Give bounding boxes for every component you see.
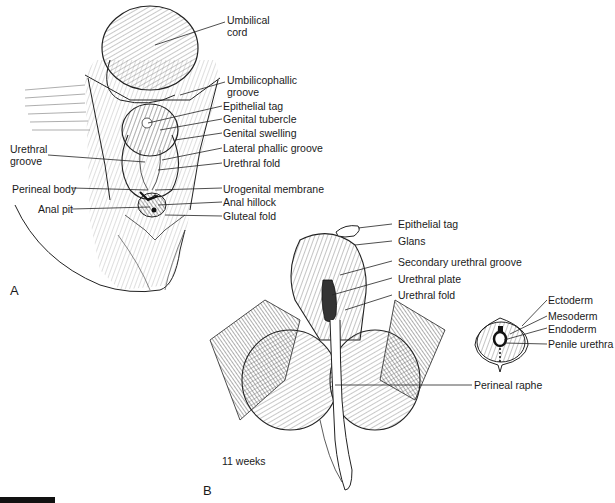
label-genital-tubercle: Genital tubercle (223, 113, 297, 125)
label-epithelial-tag-b: Epithelial tag (398, 218, 458, 230)
label-epithelial-tag-a: Epithelial tag (223, 100, 283, 112)
panel-letter-b: B (203, 483, 212, 498)
label-urethral-fold-b: Urethral fold (398, 289, 455, 301)
label-text-line2: cord (227, 26, 270, 38)
label-endoderm: Endoderm (548, 323, 596, 335)
label-perineal-body: Perineal body (12, 183, 76, 195)
age-caption: 11 weeks (222, 455, 266, 467)
label-penile-urethra: Penile urethra (548, 338, 613, 350)
label-anal-pit: Anal pit (38, 203, 73, 215)
label-gluteal-fold: Gluteal fold (223, 210, 276, 222)
label-umbilicophallic-groove: Umbilicophallic groove (227, 74, 297, 98)
label-genital-swelling: Genital swelling (223, 127, 297, 139)
label-ectoderm: Ectoderm (548, 294, 593, 306)
label-urethral-fold-a: Urethral fold (223, 157, 280, 169)
illustration-canvas (0, 0, 615, 503)
cross-section-drawing (475, 300, 547, 372)
label-anal-hillock: Anal hillock (223, 196, 276, 208)
label-umbilical-cord: Umbilical cord (227, 14, 270, 38)
panel-letter-a: A (10, 283, 19, 298)
label-secondary-urethral-groove: Secondary urethral groove (398, 256, 522, 268)
label-text: Umbilical (227, 14, 270, 26)
label-text-line2: groove (10, 155, 47, 167)
label-text: Umbilicophallic (227, 74, 297, 86)
label-urethral-groove: Urethral groove (10, 143, 47, 167)
label-urethral-plate: Urethral plate (398, 273, 461, 285)
label-urogenital-membrane: Urogenital membrane (223, 183, 324, 195)
label-mesoderm: Mesoderm (548, 310, 598, 322)
label-lateral-phallic-groove: Lateral phallic groove (223, 142, 323, 154)
label-perineal-raphe: Perineal raphe (474, 379, 542, 391)
figure-caption-bar (0, 497, 55, 503)
label-glans: Glans (398, 235, 425, 247)
label-text-line2: groove (227, 86, 297, 98)
label-text: Urethral (10, 143, 47, 155)
